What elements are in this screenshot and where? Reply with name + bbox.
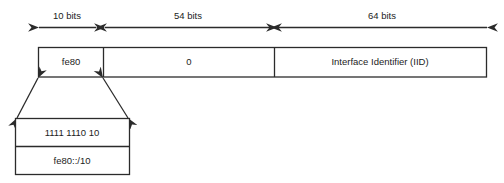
callout-right-connector: [103, 78, 128, 118]
address-field-interface-identifier: Interface Identifier (IID): [331, 57, 428, 67]
zeroes-width-label: 54 bits: [174, 11, 202, 21]
callout-prefix-notation: fe80::/10: [54, 156, 91, 166]
prefix-width-label: 10 bits: [53, 11, 81, 21]
iid-width-label: 64 bits: [368, 11, 396, 21]
address-field-zeroes: 0: [186, 57, 191, 67]
callout-binary-prefix: 1111 1110 10: [45, 128, 100, 138]
callout-left-connector: [17, 78, 38, 118]
ipv6-link-local-address-diagram: 10 bits 54 bits 64 bits fe80 0 Interface…: [0, 0, 504, 183]
address-field-prefix: fe80: [62, 57, 81, 67]
